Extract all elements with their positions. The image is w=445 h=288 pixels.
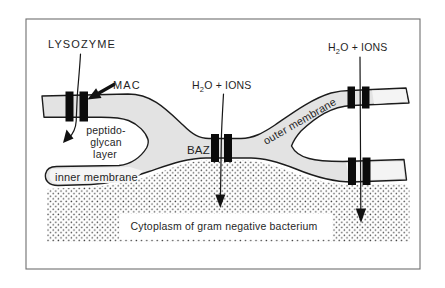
- outer-membrane-label: outer membrane: [261, 95, 338, 146]
- membrane-diagram: LYSOZYME MAC H2O + IONS H2O + IONS pepti…: [0, 0, 445, 288]
- mac-label: MAC: [113, 79, 141, 91]
- mac-arrow-tail: [99, 85, 114, 94]
- cytoplasm-label: Cytoplasm of gram negative bacterium: [131, 220, 318, 232]
- outer-membrane-right-light-fill: [372, 90, 408, 105]
- lysozyme-arrowhead-icon: [63, 130, 74, 144]
- pore-bar-outer-right-left: [348, 87, 356, 109]
- peptidoglycan-label-line1: peptido-: [86, 124, 126, 136]
- pore-bar-outer-right-right: [362, 87, 370, 109]
- h2o-left-rest: O + IONS: [204, 79, 251, 91]
- pore-bar-mac-left: [66, 92, 74, 122]
- peptidoglycan-label-line2: glycan: [90, 136, 122, 148]
- baz-label: BAZ: [187, 144, 210, 156]
- pore-bar-mac-right: [80, 92, 89, 122]
- h2o-ions-left-label: H2O + IONS: [192, 79, 252, 94]
- pore-bar-inner-right-left: [348, 158, 356, 186]
- h2o-ions-right-label: H2O + IONS: [328, 41, 388, 56]
- figure-page: LYSOZYME MAC H2O + IONS H2O + IONS pepti…: [0, 0, 445, 288]
- pore-bar-baz-right: [224, 134, 232, 162]
- lysozyme-label: LYSOZYME: [48, 38, 116, 50]
- h2o-right-rest: O + IONS: [340, 41, 387, 53]
- inner-membrane-label: inner membrane: [55, 171, 138, 183]
- pore-bar-baz-left: [211, 134, 219, 162]
- peptidoglycan-label-line3: layer: [93, 148, 117, 160]
- h2o-right-arrow-line: [360, 57, 361, 209]
- h2o-right-h: H: [328, 41, 336, 53]
- h2o-left-h: H: [192, 79, 200, 91]
- pore-bar-inner-right-right: [363, 158, 371, 186]
